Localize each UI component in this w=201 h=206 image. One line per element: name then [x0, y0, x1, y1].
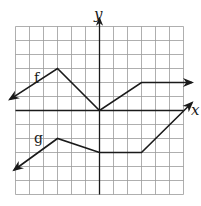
g-label: g	[34, 130, 43, 146]
y-axis-label: y	[93, 5, 103, 23]
function-graph: y x f g	[0, 0, 201, 206]
f-label: f	[34, 70, 41, 86]
x-axis-label: x	[191, 101, 200, 119]
axes	[16, 19, 184, 195]
